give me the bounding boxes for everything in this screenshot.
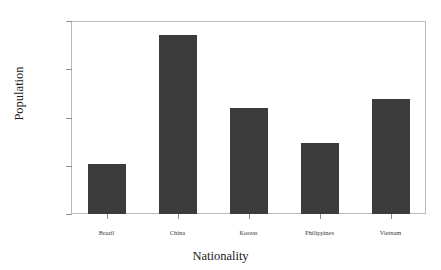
bar-chart: 0200,000400,000600,000800,000 Population… [0,0,441,270]
bar [301,143,339,214]
bar [88,164,126,214]
y-tick-mark [66,166,72,167]
bar [372,99,410,214]
x-tick-mark [320,214,321,219]
x-axis-title: Nationality [0,249,441,264]
y-tick-mark [66,69,72,70]
y-tick-mark [66,118,72,119]
y-tick-mark [66,214,72,215]
x-tick-mark [391,214,392,219]
x-tick-mark [249,214,250,219]
bar [159,35,197,214]
x-tick-label: Vietnam [346,229,436,236]
y-tick-mark [66,21,72,22]
bar [230,108,268,214]
x-tick-mark [107,214,108,219]
y-axis-title: Population [12,39,27,149]
bars-layer [71,21,426,214]
x-tick-mark [178,214,179,219]
